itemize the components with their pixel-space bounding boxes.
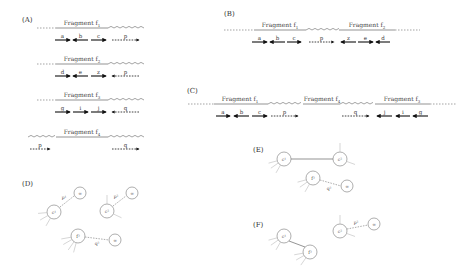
panel-f-edge-p2-label: p² bbox=[354, 220, 359, 225]
panel-d-edge-q3 bbox=[85, 237, 109, 240]
panel-f-node-f1-spoke-3 bbox=[276, 242, 281, 250]
panel-label-a: (A) bbox=[22, 16, 33, 24]
panel-d-node-f3-spoke-4 bbox=[74, 243, 77, 253]
panel-d-node-inf-1-label: ∞ bbox=[78, 191, 82, 196]
panel-label-b: (B) bbox=[224, 10, 235, 18]
panel-d-node-f3-spoke-2 bbox=[63, 240, 72, 245]
panel-a-row1-gap-right bbox=[108, 26, 144, 28]
panel-e-node-f3-spoke-1 bbox=[298, 180, 307, 182]
panel-a-row1-read-b-label: b bbox=[79, 33, 83, 39]
panel-a-row2-read-d-label: d bbox=[61, 69, 65, 75]
panel-label-e: (E) bbox=[253, 146, 264, 154]
panel-b-fragment-1-label: Fragment f1 bbox=[262, 21, 299, 30]
panel-e-node-f3-label: f³ bbox=[311, 176, 315, 181]
panel-c-read-i-label: i bbox=[402, 109, 404, 115]
panel-a-row1-fragment-label: Fragment f1 bbox=[64, 19, 101, 28]
panel-c-fragment-4-label: Fragment f4 bbox=[304, 95, 341, 104]
panel-d-node-f1-label: c¹ bbox=[52, 210, 57, 215]
panel-d-node-inf-2-label: ∞ bbox=[130, 191, 134, 196]
panel-f-node-f2-spoke-2 bbox=[347, 233, 355, 236]
panel-d-node-f1-spoke-3 bbox=[46, 218, 51, 226]
panel-c-read-j-label: j bbox=[383, 109, 386, 116]
panel-b-read-b-label: b bbox=[276, 35, 280, 41]
panel-c-read-g-label: g bbox=[419, 109, 423, 116]
panel-a-row2-fragment-label: Fragment f2 bbox=[64, 55, 101, 64]
panel-e-node-f1-spoke-2 bbox=[271, 163, 278, 168]
panel-e-node-f1-label: c¹ bbox=[282, 157, 287, 162]
panel-d-edge-p1-label: p¹ bbox=[62, 195, 67, 200]
panel-c-fragment-3-label: Fragment f3 bbox=[384, 95, 421, 104]
panel-b-read-z-label: z bbox=[347, 35, 350, 41]
panel-a-row4-fragment-label: Fragment f4 bbox=[64, 128, 101, 137]
panel-a-row2-read-e-label: e bbox=[79, 69, 82, 75]
panel-b-gap bbox=[306, 28, 339, 30]
panel-f-node-inf-label: ∞ bbox=[372, 222, 376, 227]
panel-c-gap-1 bbox=[268, 102, 301, 104]
panel-d-node-f3-spoke-3 bbox=[68, 242, 74, 250]
panel-a-row3-gap-right bbox=[108, 98, 144, 100]
panel-a-row1-read-p-label: p bbox=[124, 33, 128, 40]
panel-f-node-f3-spoke-2 bbox=[296, 256, 304, 261]
panel-e-node-f2-spoke-2 bbox=[347, 161, 355, 164]
panel-f-node-f1-spoke-1 bbox=[269, 238, 278, 240]
panel-f-edge-p2 bbox=[347, 225, 368, 229]
panel-c-gap-2 bbox=[340, 102, 373, 104]
panel-c-fragment-1-label: Fragment f1 bbox=[222, 95, 259, 104]
panel-d-node-f1-spoke-2 bbox=[40, 216, 48, 221]
panel-f-node-f1-label: c¹ bbox=[282, 234, 287, 239]
panel-d-node-f2-label: c² bbox=[105, 209, 110, 214]
panel-f-node-f1-spoke-2 bbox=[271, 240, 278, 245]
panel-d-node-f3-label: f³ bbox=[76, 234, 80, 239]
panel-a-row2-read-z-label: z bbox=[97, 69, 100, 75]
panel-a-row4-read-q-label: q bbox=[124, 142, 128, 149]
panel-label-f: (F) bbox=[253, 221, 264, 229]
panel-f-node-f2-label: c² bbox=[338, 229, 343, 234]
panel-label-d: (D) bbox=[22, 180, 33, 188]
panel-e-node-inf-label: ∞ bbox=[345, 184, 349, 189]
panel-d-node-f3-spoke-1 bbox=[61, 237, 71, 239]
panel-a-row4-gap-left bbox=[28, 135, 55, 137]
panel-f-edge-f1-f3 bbox=[289, 241, 305, 247]
panel-c-read-q-label: q bbox=[354, 109, 358, 116]
panel-b-read-c-label: c bbox=[292, 35, 295, 41]
panel-d-node-f1-spoke-1 bbox=[38, 213, 47, 214]
panel-a-row4-read-p-label: p bbox=[38, 142, 42, 149]
panel-d-edge-p2-label: p² bbox=[114, 194, 119, 199]
panel-e-node-f1-spoke-3 bbox=[276, 165, 281, 173]
panel-d-node-f2-spoke-2 bbox=[113, 214, 121, 218]
panel-a-row3-read-q-label: q bbox=[124, 105, 128, 112]
panel-a-row3-read-g-label: g bbox=[61, 105, 65, 112]
panel-a-row2-gap-right bbox=[108, 62, 144, 64]
panel-b-read-p-label: p bbox=[320, 35, 324, 42]
panel-c-read-p-label: p bbox=[283, 109, 287, 116]
panel-a-row3-fragment-label: Fragment f3 bbox=[64, 91, 101, 100]
panel-a-row3-read-j-label: j bbox=[97, 105, 100, 112]
panel-a-row2-read-p-label: p bbox=[124, 69, 128, 76]
panel-a-row1-read-a-label: a bbox=[61, 33, 65, 39]
panel-a-row1-read-c-label: c bbox=[97, 33, 100, 39]
panel-b-read-a-label: a bbox=[258, 35, 262, 41]
panel-b-read-d-label: d bbox=[381, 35, 385, 41]
panel-e-node-f3-spoke-2 bbox=[300, 182, 307, 187]
panel-c-read-a-label: a bbox=[221, 109, 225, 115]
panel-a-row3-read-i-label: i bbox=[80, 105, 82, 111]
panel-a-row4-gap-right bbox=[108, 135, 144, 137]
panel-b-read-e-label: e bbox=[364, 35, 367, 41]
panel-d-node-inf-3-label: ∞ bbox=[113, 238, 117, 243]
panel-e-node-f3-spoke-3 bbox=[305, 184, 310, 192]
panel-f-node-f3-label: f³ bbox=[308, 250, 312, 255]
panel-e-node-f2-label: c² bbox=[338, 157, 343, 162]
panel-f-node-f3-spoke-1 bbox=[294, 253, 303, 255]
panel-d-edge-q3-label: q³ bbox=[95, 241, 100, 246]
panel-e-node-f1-spoke-1 bbox=[269, 161, 278, 163]
panel-c-read-b-label: b bbox=[240, 109, 244, 115]
panel-b-fragment-2-label: Fragment f2 bbox=[349, 21, 386, 30]
panel-c-read-c-label: c bbox=[258, 109, 261, 115]
panel-e-edge-q3-label: q³ bbox=[327, 186, 332, 191]
panel-f-node-f3-spoke-3 bbox=[301, 258, 306, 265]
fragment-assembly-diagram: (A) (B) (C) (D) (E) (F) Fragment f1abcpF… bbox=[0, 0, 476, 272]
panel-label-c: (C) bbox=[187, 87, 198, 95]
